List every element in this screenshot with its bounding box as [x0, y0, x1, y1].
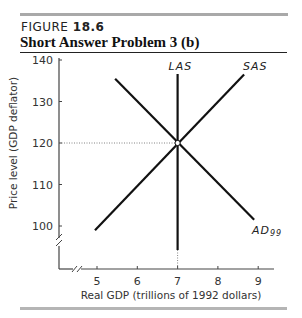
equilibrium-point	[175, 140, 180, 145]
y-tick-label: 140	[32, 54, 53, 67]
sas-label: SAS	[243, 60, 268, 73]
y-tick-label: 120	[32, 137, 53, 150]
ad-curve	[115, 79, 254, 220]
x-tick-label: 9	[255, 275, 262, 288]
y-tick-label: 100	[32, 220, 53, 233]
y-tick-label: 110	[32, 179, 53, 192]
y-axis-title: Price level (GDP deflator)	[7, 77, 19, 209]
chart: 56789100110120130140Real GDP (trillions …	[0, 0, 302, 318]
bottom-rule	[20, 307, 287, 310]
axes: 56789100110120130140Real GDP (trillions …	[7, 54, 274, 301]
ad-label: AD99	[251, 224, 282, 238]
x-tick-label: 6	[134, 275, 141, 288]
y-tick-label: 130	[32, 96, 53, 109]
x-tick-label: 8	[214, 275, 221, 288]
y-axis-break	[56, 240, 62, 246]
las-label: LAS	[169, 60, 193, 73]
x-tick-label: 5	[94, 275, 101, 288]
x-axis-title: Real GDP (trillions of 1992 dollars)	[81, 289, 262, 301]
sas-curve	[95, 75, 244, 231]
curves	[95, 74, 254, 250]
x-tick-label: 7	[174, 275, 181, 288]
